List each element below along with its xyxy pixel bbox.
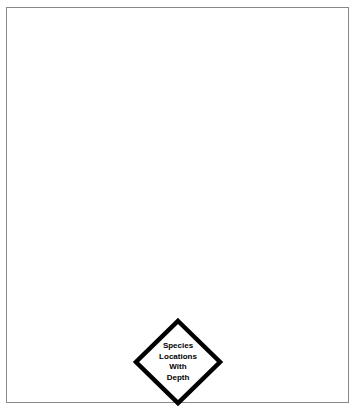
decision-node-species-locations-with-depth[interactable]: Species Locations With Depth [133,318,223,406]
page-frame: Species Locations With Depth [6,7,349,403]
diamond-shape-icon [133,318,223,406]
diagram-canvas: Species Locations With Depth [7,8,348,402]
